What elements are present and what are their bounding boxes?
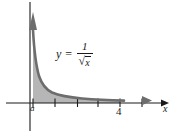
function-equation-label: y = 1 √ x [56,41,93,68]
plot-canvas [0,0,176,140]
x-axis-label: x [163,104,167,114]
equation-denominator: √ x [77,54,93,68]
radicand: x [85,56,90,68]
equation-operator: = [65,47,71,62]
equation-lhs: y [56,47,61,62]
math-figure-graph: y = 1 √ x a 4 x [0,0,176,140]
tick-label-upper-bound: 4 [116,106,122,117]
equation-numerator: 1 [79,41,91,53]
radical-group: √ x [79,55,91,68]
tick-label-lower-bound: a [30,104,35,113]
curve-right-arrowhead-icon [142,96,152,105]
equation-fraction: 1 √ x [77,41,93,68]
